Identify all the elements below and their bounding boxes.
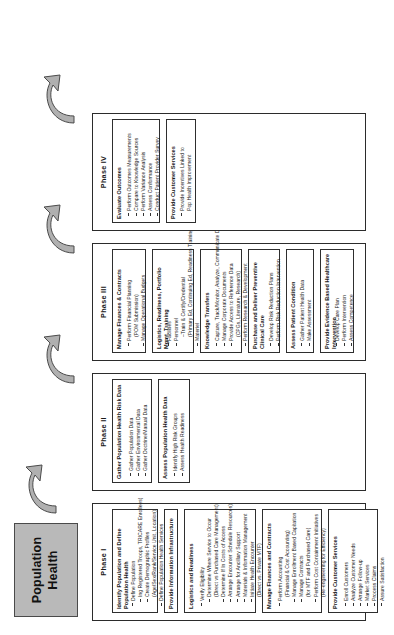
- group-title: Knowledge Transfers: [204, 253, 211, 349]
- group-box-manage-finances-contracts-p1[interactable]: Manage Finances and Contracts Perform Ac…: [262, 509, 322, 613]
- group-box-evaluate-outcomes[interactable]: Evaluate Outcomes Perform Outcomes Measu…: [112, 119, 160, 223]
- group-title: Logistics and Readiness: [188, 513, 195, 609]
- bullet: Verify Eligibility: [199, 513, 206, 606]
- bullet: Gather Population Data: [128, 383, 135, 476]
- bullet: Conduct Patient Provider Survey: [154, 123, 161, 216]
- bullet: (Primary Ed, Continuing Ed, Readiness Tr…: [187, 253, 194, 346]
- phase-arrow-4-icon: [40, 69, 80, 127]
- group-box-logistics-readiness[interactable]: Logistics and Readiness Verify Eligibili…: [184, 509, 256, 613]
- group-bullets: Gather Patient Health Data Make Assessme…: [299, 253, 313, 346]
- group-box-gather-population-health-risk-data[interactable]: Gather Population Health Risk Data Gathe…: [112, 379, 152, 483]
- group-title: Assess Population Health Data: [162, 383, 169, 479]
- group-title: Gather Population Health Risk Data: [116, 383, 123, 479]
- bullet: Assess Health Readiness: [179, 383, 186, 476]
- bullet: Analyze Customer Needs: [350, 513, 357, 606]
- bullet: Develop Risk Reduction Plans: [268, 253, 275, 346]
- bullet: Perform Intervention: [341, 253, 348, 346]
- bullet: (POM Submission): [133, 253, 140, 346]
- bullet: Market Services: [364, 513, 371, 606]
- phase-arrow-3-icon: [40, 199, 80, 257]
- bullet: Develop Care Plan: [334, 253, 341, 346]
- phase-label-1: Phase I: [99, 504, 108, 620]
- group-box-assess-population-health-data[interactable]: Assess Population Health Data Identify H…: [158, 379, 190, 483]
- group-title: Manage Finances & Contracts: [116, 253, 123, 349]
- group-bullets: Capture, Track/Monitor, Analyze, Communi…: [214, 253, 250, 346]
- bullet: Ing Registered Troops, TRICARE Enrollees…: [137, 513, 144, 606]
- bullet: Identify High Risk Groups: [172, 383, 179, 476]
- group-bullets: Perform Accounting (Financial & Cost Acc…: [277, 513, 327, 606]
- bullet: Provide Incentives Linked to: [179, 123, 186, 216]
- phase-column-1[interactable]: Phase I Identify Population and Define P…: [92, 503, 366, 621]
- group-title: Purchase and Deliver Preventive Clinical…: [252, 253, 266, 349]
- bullet: Assess Competence: [348, 253, 355, 346]
- bullet: (Direct vs Purchased Care Management): [213, 513, 220, 606]
- bullet: Initiate Health Encounter: [249, 513, 256, 606]
- bullet: Create Demographic Profiles: [144, 513, 151, 606]
- group-bullets: Develop Risk Reduction Plans Perform Ris…: [268, 253, 282, 346]
- bullet: Manage Operational Budgets: [140, 253, 147, 346]
- page-title: Population Health: [14, 523, 78, 617]
- bullet: (Financial & Cost Accounting): [284, 513, 291, 606]
- bullet: Define Population: [130, 513, 137, 606]
- phase-label-4: Phase IV: [99, 114, 108, 230]
- bullet: Perform Accounting: [277, 513, 284, 606]
- group-bullets: Develop Care Plan Perform Intervention A…: [334, 253, 355, 346]
- bullet: Make Assessment: [306, 253, 313, 346]
- group-box-manage-finances-contracts-p3[interactable]: Manage Finances & Contracts Perform Fina…: [112, 249, 146, 353]
- group-bullets: Identify High Risk Groups Assess Health …: [172, 383, 186, 476]
- phase-column-3[interactable]: Phase III Manage Finances & Contracts Pe…: [92, 243, 366, 361]
- bullet: Perform Risk Reduction Intervention: [275, 253, 282, 346]
- group-box-provide-information-infrastructure[interactable]: Provide Information Infrastructure: [164, 509, 178, 613]
- group-title: Manage Finances and Contracts: [266, 513, 273, 609]
- group-box-knowledge-transfers[interactable]: Knowledge Transfers Capture, Track/Monit…: [200, 249, 242, 353]
- group-box-purchase-deliver-preventive-clinical-care[interactable]: Purchase and Deliver Preventive Clinical…: [248, 249, 280, 353]
- bullet: Provide Access to Reference Data: [228, 253, 235, 346]
- group-box-logistics-readiness-portfolio[interactable]: Logistics, Readiness, Portfolio Mgmt, Tr…: [152, 249, 194, 353]
- group-box-provide-customer-services-p1[interactable]: Provide Customer Services Enroll Custome…: [328, 509, 378, 613]
- group-box-provide-evidence-based-healthcare-intervention[interactable]: Provide Evidence Based Healthcare Interv…: [320, 249, 354, 353]
- group-bullets: Perform Financial Planning (POM Submissi…: [126, 253, 147, 346]
- group-title: Identify Population and Define Populatio…: [116, 513, 130, 609]
- bullet: Gather Patient Health Data: [299, 253, 306, 346]
- group-bullets: Facilities Personnel –Train & Certify/Cr…: [166, 253, 202, 346]
- bullet: Gather Doctrine/Manual Data: [142, 383, 149, 476]
- bullet: Personnel: [173, 253, 180, 346]
- bullet: Enroll Customers: [343, 513, 350, 606]
- bullet: (Age/Sex/Rank/Service Unit, Location): [151, 513, 158, 606]
- group-box-provide-customer-services-p4[interactable]: Provide Customer Services Provide Incent…: [166, 119, 196, 223]
- group-bullets: Perform Outcomes Measurements Compare to…: [126, 123, 162, 216]
- bullet: Perform Financial Planning: [126, 253, 133, 346]
- group-box-identify-population[interactable]: Identify Population and Define Populatio…: [112, 509, 158, 613]
- group-bullets: Verify Eligibility Determine Where Servi…: [199, 513, 263, 606]
- bullet: Perform Variance Analysis: [140, 123, 147, 216]
- bullet: Arrange Encounter Schedule Resources): [227, 513, 234, 606]
- bullet: –Train & Certify/Credential: [180, 253, 187, 346]
- bullet: Determine If In Costs of Access: [220, 513, 227, 606]
- bullet: Process Claims: [371, 513, 378, 606]
- bullet: Arrange for Ancillary Support: [235, 513, 242, 606]
- rotated-page-wrapper: Population Health Phase I Identify Popul…: [0, 0, 394, 635]
- group-title: Provide Customer Services: [170, 123, 177, 219]
- bullet: Capture, Track/Monitor, Analyze, Communi…: [214, 253, 221, 346]
- phase-label-3: Phase III: [99, 244, 108, 360]
- bullet: Assure Satisfaction: [379, 513, 386, 606]
- page-title-line1: Population: [30, 537, 46, 604]
- group-box-assess-patient-condition[interactable]: Assess Patient Condition Gather Patient …: [286, 249, 314, 353]
- bullet: Manage Contracts: [298, 513, 305, 606]
- phase-arrow-1-icon: [22, 459, 62, 517]
- bullet: (Re-engineering for Efficiency): [320, 513, 327, 606]
- bullet: (for MTF and Purchased Care): [305, 513, 312, 606]
- bullet: Facilities: [166, 253, 173, 346]
- group-bullets: Enroll Customers Analyze Customer Needs …: [343, 513, 386, 606]
- group-title: Provide Information Infrastructure: [168, 513, 175, 609]
- group-title: Assess Patient Condition: [290, 253, 297, 349]
- group-title: Evaluate Outcomes: [116, 123, 123, 219]
- phase-column-2[interactable]: Phase II Gather Population Health Risk D…: [92, 373, 366, 491]
- bullet: (CPGs, Literature, Research): [235, 253, 242, 346]
- phase-column-4[interactable]: Phase IV Evaluate Outcomes Perform Outco…: [92, 113, 366, 231]
- bullet: Assess Conformance: [147, 123, 154, 216]
- phase-label-2: Phase II: [99, 374, 108, 490]
- bullet: Pop Health Improvement: [186, 123, 193, 216]
- page-title-line2: Health: [46, 537, 62, 604]
- bullet: Determine Where Service to Occur: [206, 513, 213, 606]
